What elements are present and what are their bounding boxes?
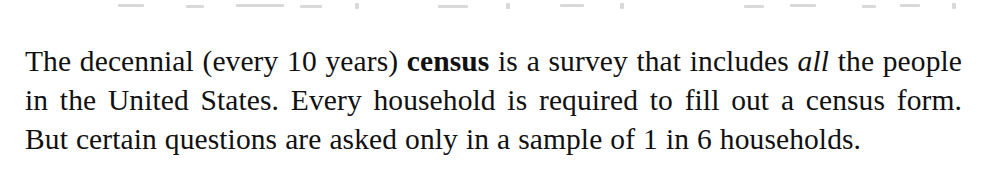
- paragraph-text-part-2: is a survey that includes: [489, 45, 797, 77]
- bold-term-census: census: [407, 45, 490, 77]
- body-paragraph: The decennial (every 10 years) census is…: [25, 42, 962, 160]
- document-page: The decennial (every 10 years) census is…: [0, 0, 984, 184]
- clipped-text-artifacts: [0, 0, 984, 9]
- paragraph-text-part-1: The decennial (every 10 years): [25, 45, 407, 77]
- italic-term-all: all: [798, 45, 829, 77]
